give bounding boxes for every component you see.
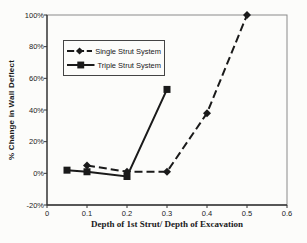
legend: Single Strut System Triple Strut System [63, 40, 165, 76]
diamond-marker-icon [67, 46, 92, 56]
legend-item-triple-strut: Triple Strut System [67, 60, 161, 70]
legend-item-single-strut: Single Strut System [67, 46, 161, 56]
plot-area [0, 0, 307, 243]
legend-label-triple-strut: Triple Strut System [98, 61, 162, 70]
square-marker-icon [67, 60, 95, 70]
strut-depth-deflection-chart: 00.10.20.30.40.50.6-20%0%20%40%60%80%100… [0, 0, 307, 243]
x-axis-title: Depth of 1st Strut/ Depth of Excavation [91, 219, 243, 229]
legend-label-single-strut: Single Strut System [95, 47, 161, 56]
y-axis-title: % Change in Wall Deflect [7, 60, 16, 160]
